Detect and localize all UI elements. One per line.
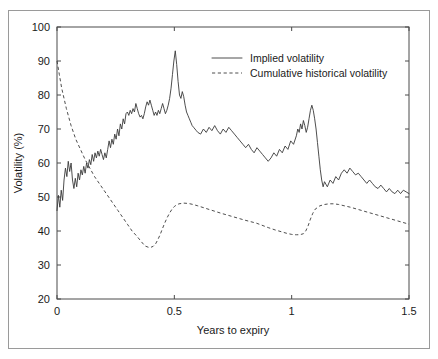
y-axis-title: Volatility (%) <box>12 133 24 194</box>
legend-label-cumulative-historical-volatility: Cumulative historical volatility <box>250 67 388 79</box>
legend-label-implied-volatility: Implied volatility <box>250 52 325 64</box>
figure-root: 2030405060708090100 00.511.5 Years to ex… <box>0 0 438 359</box>
x-axis-tick-labels: 00.511.5 <box>54 305 417 317</box>
y-tick-label: 30 <box>38 259 50 271</box>
x-tick-label: 0 <box>54 305 60 317</box>
y-tick-label: 80 <box>38 89 50 101</box>
y-tick-label: 90 <box>38 55 50 67</box>
y-tick-label: 50 <box>38 191 50 203</box>
volatility-term-structure-chart: 2030405060708090100 00.511.5 Years to ex… <box>0 0 438 359</box>
x-tick-label: 1 <box>289 305 295 317</box>
y-axis-tick-labels: 2030405060708090100 <box>32 21 50 305</box>
y-tick-label: 40 <box>38 225 50 237</box>
y-tick-label: 70 <box>38 123 50 135</box>
y-tick-label: 20 <box>38 293 50 305</box>
y-tick-label: 60 <box>38 157 50 169</box>
x-tick-label: 0.5 <box>167 305 182 317</box>
x-axis-title: Years to expiry <box>197 324 270 336</box>
y-tick-label: 100 <box>32 21 50 33</box>
x-tick-label: 1.5 <box>401 305 416 317</box>
